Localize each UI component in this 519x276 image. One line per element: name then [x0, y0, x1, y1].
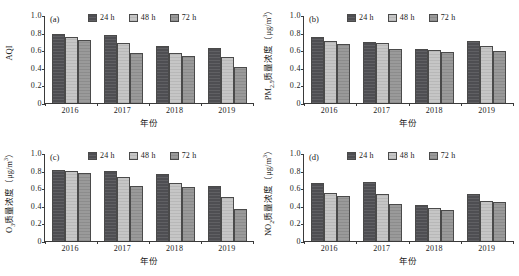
bar[interactable]	[428, 208, 441, 241]
bar[interactable]	[208, 48, 221, 103]
bar[interactable]	[65, 171, 78, 241]
bar[interactable]	[104, 171, 117, 241]
bar-group-2019	[461, 16, 513, 103]
x-tick-label: 2016	[303, 244, 356, 254]
bar-group-2016	[45, 154, 97, 241]
bar[interactable]	[324, 41, 337, 103]
y-tick-label: 0.2	[273, 82, 301, 90]
bar[interactable]	[104, 35, 117, 103]
panel-b: PM2.5质量浓度（μg/m3）1.00.80.60.40.20(b)24 h4…	[259, 0, 519, 138]
bar[interactable]	[389, 49, 402, 103]
bar[interactable]	[65, 37, 78, 103]
y-tick-label: 0.6	[14, 47, 42, 55]
y-axis-ticks-c: 1.00.80.60.40.20	[14, 154, 42, 242]
bar[interactable]	[337, 196, 350, 241]
x-axis-ticks-d: 2016201720182019	[303, 244, 513, 254]
bar[interactable]	[337, 44, 350, 103]
bar[interactable]	[363, 182, 376, 241]
plot-area-a	[44, 16, 253, 104]
plot-area-b	[303, 16, 513, 104]
bar[interactable]	[78, 173, 91, 241]
x-tick-label: 2017	[356, 244, 409, 254]
plot-area-c	[44, 154, 253, 242]
x-tick-label: 2018	[408, 244, 461, 254]
bar[interactable]	[221, 57, 234, 103]
bar-group-2017	[356, 16, 408, 103]
bar[interactable]	[52, 34, 65, 103]
bar[interactable]	[234, 67, 247, 103]
bar[interactable]	[311, 183, 324, 241]
bar[interactable]	[480, 201, 493, 241]
x-tick-label: 2019	[461, 106, 514, 116]
bar-group-2018	[409, 16, 461, 103]
x-axis-title-c: 年份	[44, 256, 253, 266]
bar[interactable]	[376, 43, 389, 103]
bar-group-2016	[45, 16, 97, 103]
y-tick-label: 0.4	[273, 65, 301, 73]
y-tick-label: 0	[14, 238, 42, 246]
x-tick-label: 2019	[201, 244, 253, 254]
bar-group-2019	[461, 154, 513, 241]
x-axis-title-d: 年份	[303, 256, 513, 266]
bar[interactable]	[415, 205, 428, 241]
bar[interactable]	[221, 197, 234, 241]
bar[interactable]	[311, 37, 324, 103]
bar-group-2016	[304, 16, 356, 103]
bar[interactable]	[182, 187, 195, 241]
y-tick-label: 1.0	[273, 150, 301, 158]
figure-four-panel-bar-charts: AQI1.00.80.60.40.20(a)24 h48 h72 h201620…	[0, 0, 519, 276]
bar[interactable]	[324, 193, 337, 241]
x-axis-ticks-b: 2016201720182019	[303, 106, 513, 116]
bar[interactable]	[169, 183, 182, 241]
y-tick-label: 0	[273, 100, 301, 108]
x-tick-label: 2016	[44, 106, 96, 116]
y-tick-label: 0.2	[14, 82, 42, 90]
bar[interactable]	[156, 174, 169, 241]
x-tick-label: 2019	[461, 244, 514, 254]
panel-c: O3质量浓度（μg/m3）1.00.80.60.40.20(c)24 h48 h…	[0, 138, 259, 276]
bar[interactable]	[130, 186, 143, 241]
bar[interactable]	[376, 194, 389, 241]
bar[interactable]	[117, 43, 130, 103]
bar[interactable]	[52, 170, 65, 241]
y-tick-label: 1.0	[14, 12, 42, 20]
x-axis-ticks-c: 2016201720182019	[44, 244, 253, 254]
x-tick-label: 2016	[303, 106, 356, 116]
bar[interactable]	[182, 56, 195, 103]
x-tick-label: 2017	[96, 244, 148, 254]
y-tick-label: 0.8	[273, 30, 301, 38]
bar-group-2016	[304, 154, 356, 241]
y-tick-label: 0.4	[14, 65, 42, 73]
bar[interactable]	[117, 177, 130, 241]
bar[interactable]	[467, 194, 480, 241]
bar[interactable]	[467, 41, 480, 103]
y-axis-ticks-a: 1.00.80.60.40.20	[14, 16, 42, 104]
bar[interactable]	[208, 186, 221, 241]
bar[interactable]	[78, 40, 91, 103]
x-tick-mark	[253, 103, 254, 106]
bar[interactable]	[169, 53, 182, 103]
x-tick-label: 2018	[408, 106, 461, 116]
y-tick-label: 0.4	[14, 203, 42, 211]
bar[interactable]	[480, 46, 493, 103]
y-tick-label: 0.6	[273, 47, 301, 55]
x-axis-title-b: 年份	[303, 118, 513, 128]
bar[interactable]	[428, 50, 441, 103]
bar[interactable]	[234, 209, 247, 241]
bar[interactable]	[130, 53, 143, 103]
bar[interactable]	[389, 204, 402, 241]
bar-group-2019	[201, 16, 253, 103]
x-tick-label: 2018	[149, 106, 201, 116]
bar[interactable]	[493, 202, 506, 241]
bar-group-2019	[201, 154, 253, 241]
bar[interactable]	[415, 49, 428, 103]
plot-area-d	[303, 154, 513, 242]
bar-groups	[45, 154, 253, 241]
bar[interactable]	[493, 51, 506, 103]
bar[interactable]	[441, 210, 454, 241]
bar[interactable]	[156, 46, 169, 103]
bar-group-2018	[409, 154, 461, 241]
bar[interactable]	[441, 52, 454, 103]
y-tick-label: 0.2	[273, 220, 301, 228]
bar[interactable]	[363, 42, 376, 103]
